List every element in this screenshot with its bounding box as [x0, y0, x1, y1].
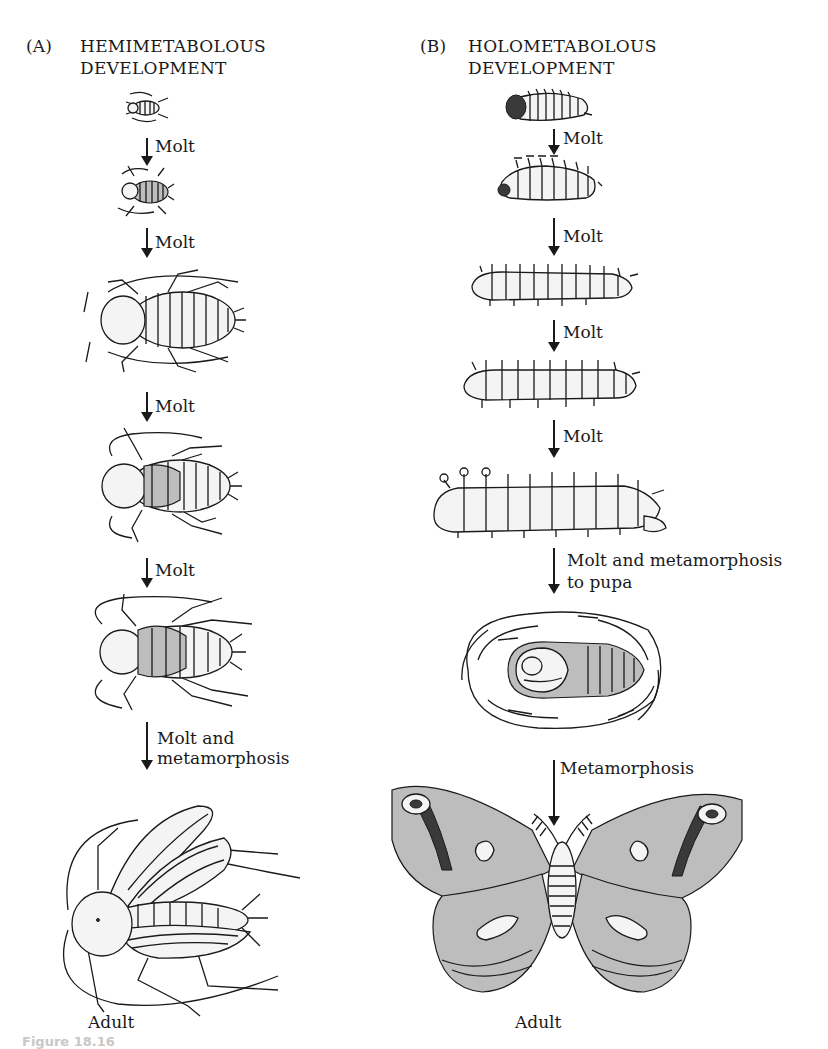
final-label-b: Adult — [515, 1012, 561, 1032]
arrow-down-b5 — [553, 548, 555, 586]
step-label-a3: Molt — [155, 396, 195, 416]
nymph-3-illustration — [78, 262, 253, 377]
arrow-down-a2 — [146, 228, 148, 250]
step-label-a5-line1: Molt and — [157, 728, 234, 748]
larva-4-illustration — [456, 350, 646, 414]
nymph-1-illustration — [122, 88, 172, 128]
step-label-a2: Molt — [155, 232, 195, 252]
step-label-b5-line2: to pupa — [567, 572, 632, 592]
arrow-down-a3 — [146, 392, 148, 414]
step-label-a5-line2: metamorphosis — [157, 748, 290, 768]
larva-2-illustration — [490, 152, 605, 214]
figure-caption: Figure 18.16 — [22, 1034, 115, 1049]
nymph-5-illustration — [62, 590, 262, 715]
arrow-down-b1 — [553, 129, 555, 147]
nymph-4-illustration — [72, 426, 247, 546]
panel-b-title-line1: HOLOMETABOLOUS — [468, 36, 657, 57]
arrow-down-a5 — [146, 722, 148, 762]
arrow-down-a1 — [146, 138, 148, 158]
arrow-down-b3 — [553, 320, 555, 344]
adult-moth-illustration — [382, 770, 752, 1000]
arrow-down-a4 — [146, 558, 148, 580]
larva-3-illustration — [462, 256, 642, 310]
step-label-a4: Molt — [155, 560, 195, 580]
panel-a-title-line1: HEMIMETABOLOUS — [80, 36, 266, 57]
panel-b-title-line2: DEVELOPMENT — [468, 58, 615, 79]
arrow-down-b4 — [553, 420, 555, 450]
larva-1-illustration — [500, 85, 595, 130]
step-label-b2: Molt — [563, 226, 603, 246]
final-label-a: Adult — [88, 1012, 134, 1032]
pupa-cocoon-illustration — [448, 600, 673, 740]
adult-cockroach-illustration — [28, 790, 303, 1020]
step-label-b4: Molt — [563, 426, 603, 446]
panel-a-title-line2: DEVELOPMENT — [80, 58, 227, 79]
step-label-a1: Molt — [155, 136, 195, 156]
step-label-b3: Molt — [563, 322, 603, 342]
panel-a-letter: (A) — [26, 36, 52, 57]
larva-5-illustration — [424, 460, 674, 540]
nymph-2-illustration — [112, 164, 182, 219]
step-label-b5-line1: Molt and metamorphosis — [567, 550, 782, 570]
panel-b-letter: (B) — [420, 36, 446, 57]
step-label-b1: Molt — [563, 128, 603, 148]
arrow-down-b2 — [553, 218, 555, 248]
